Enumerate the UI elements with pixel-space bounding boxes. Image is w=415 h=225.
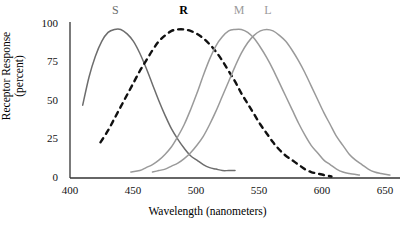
x-tick-600: 600 <box>305 185 339 196</box>
receptor-response-chart: 100 75 50 25 0 400 450 500 550 600 650 W… <box>0 0 415 225</box>
curve-label-s: S <box>112 4 119 16</box>
x-axis-title: Wavelength (nanometers) <box>0 205 415 217</box>
y-tick-0: 0 <box>32 172 58 183</box>
y-axis-title-line1: Receptor Response <box>0 6 13 146</box>
curves-group <box>83 29 390 177</box>
x-tick-650: 650 <box>368 185 402 196</box>
y-axis-title-line2: (percent) <box>13 6 26 146</box>
x-tick-450: 450 <box>116 185 150 196</box>
curve-s <box>83 29 235 171</box>
x-tick-500: 500 <box>179 185 213 196</box>
curve-label-m: M <box>234 4 245 16</box>
x-tick-550: 550 <box>242 185 276 196</box>
x-tick-400: 400 <box>53 185 87 196</box>
curve-label-r: R <box>179 4 188 16</box>
curve-r <box>100 29 331 176</box>
y-axis-title: Receptor Response (percent) <box>0 6 48 146</box>
curve-m <box>131 29 359 175</box>
curve-label-l: L <box>264 4 271 16</box>
